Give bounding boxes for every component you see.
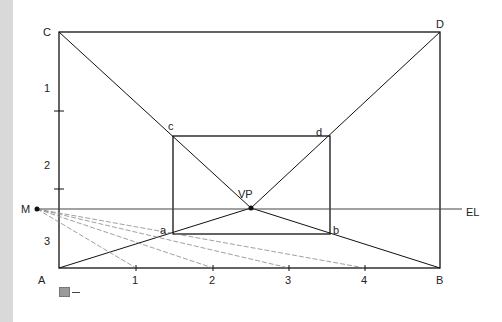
left-tick-label-1: 1	[44, 82, 50, 94]
line-C-VP	[59, 32, 251, 208]
line-A-VP	[59, 208, 251, 268]
inner-rectangle	[173, 136, 330, 234]
figure-caption	[59, 287, 80, 297]
base-tick-label-2: 2	[209, 274, 215, 286]
label-EL: EL	[466, 206, 479, 218]
label-B: B	[436, 274, 443, 286]
vanishing-point-dot	[249, 206, 254, 211]
label-A: A	[38, 274, 46, 286]
caption-dash	[72, 292, 80, 293]
perspective-diagram: C D A B c d a b VP M EL 1 2 3 4 1 2 3	[0, 0, 502, 322]
outer-rectangle	[59, 32, 440, 268]
left-tick-label-2: 2	[44, 159, 50, 171]
label-VP: VP	[238, 188, 253, 200]
base-tick-label-4: 4	[361, 274, 367, 286]
label-a: a	[160, 224, 167, 236]
label-d: d	[316, 126, 322, 138]
left-tick-label-3: 3	[44, 235, 50, 247]
label-b: b	[333, 224, 339, 236]
figure-glyph-icon	[59, 287, 70, 297]
label-c: c	[168, 120, 174, 132]
base-tick-label-3: 3	[285, 274, 291, 286]
label-C: C	[43, 26, 51, 38]
line-B-VP	[251, 208, 440, 268]
label-D: D	[436, 18, 444, 30]
label-M: M	[21, 203, 30, 215]
line-D-VP	[251, 32, 440, 208]
measuring-point-dot	[35, 207, 40, 212]
base-tick-label-1: 1	[132, 274, 138, 286]
